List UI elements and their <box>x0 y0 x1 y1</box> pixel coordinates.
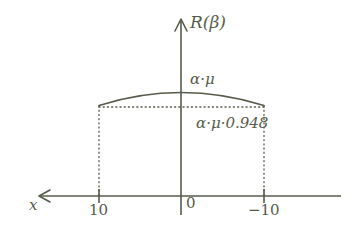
x-tick-label-10: 10 <box>89 203 108 218</box>
x-axis-label: x <box>29 198 37 213</box>
edge-value-label: α·μ·0.948 <box>196 116 268 131</box>
peak-value-label: α·μ <box>190 72 215 87</box>
plot-svg <box>0 0 359 238</box>
y-axis-label: R(β) <box>190 14 226 31</box>
x-tick-label-0: 0 <box>186 196 196 211</box>
x-tick-label-minus-10: −10 <box>248 203 280 218</box>
figure-canvas: R(β) x α·μ α·μ·0.948 10 0 −10 <box>0 0 359 238</box>
